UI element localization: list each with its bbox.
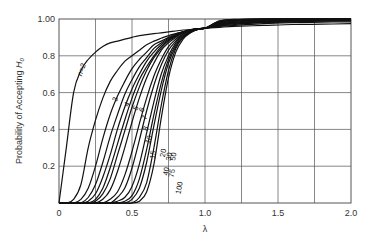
y-tick-label: 1.00 [37, 14, 55, 24]
curve-label: 3 [110, 96, 120, 103]
y-axis-ticks: 00.20.40.60.81.00 [37, 14, 56, 218]
x-tick-label: 1.0 [199, 208, 212, 218]
x-tick-label: 0.5 [126, 208, 139, 218]
curve-label: 15 [148, 150, 158, 160]
curve-label: n=2 [75, 61, 88, 77]
y-tick-label: 0.8 [42, 51, 55, 61]
y-axis-label: Probability of Accepting H0 [14, 57, 25, 164]
curve-label: 8 [141, 125, 151, 132]
x-tick-label: 1.5 [272, 208, 285, 218]
oc-curve-chart: n=234567810152030504075100 00.51.01.52.0… [0, 0, 375, 244]
y-tick-label: 0.4 [42, 124, 55, 134]
curve-label: 50 [168, 152, 178, 162]
y-axis-label-sub: 0 [19, 57, 25, 61]
x-tick-label: 0 [56, 208, 61, 218]
curve-label: 100 [174, 181, 185, 195]
y-tick-label: 0.6 [42, 88, 55, 98]
x-tick-label: 2.0 [345, 208, 358, 218]
y-tick-label: 0.2 [42, 161, 55, 171]
x-axis-ticks: 00.51.01.52.0 [56, 208, 357, 218]
x-axis-label: λ [203, 224, 208, 234]
y-axis-label-main: Probability of Accepting [14, 68, 24, 164]
curve-label: 10 [143, 134, 154, 145]
curve-label: 75 [167, 168, 177, 178]
